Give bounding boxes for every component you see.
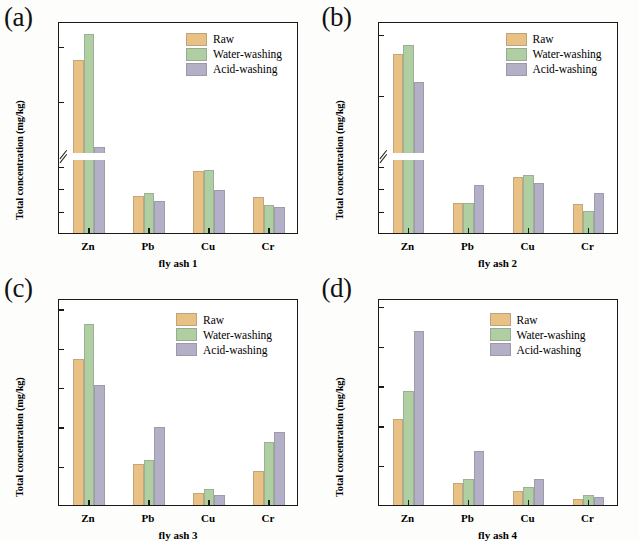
legend-swatch-icon <box>186 48 207 61</box>
y-axis-label: Total concentration (mg/kg) <box>334 100 345 220</box>
legend-swatch-icon <box>490 328 511 341</box>
bar-pb-raw <box>453 203 464 234</box>
legend-swatch-icon <box>176 343 197 356</box>
legend-label: Water-washing <box>213 48 282 60</box>
y-tick-mark <box>379 35 384 36</box>
bar-pb-acid-washing <box>154 427 165 506</box>
legend-item-water-washing[interactable]: Water-washing <box>506 47 602 61</box>
legend-label: Raw <box>533 33 554 45</box>
bar-zn-raw <box>393 54 404 234</box>
bar-cu-water-washing <box>523 175 534 235</box>
bar-cu-acid-washing <box>214 495 225 506</box>
legend-item-raw[interactable]: Raw <box>176 313 272 327</box>
legend-swatch-icon <box>186 33 207 46</box>
legend-swatch-icon <box>506 33 527 46</box>
axis-break-marker <box>59 153 297 160</box>
bar-cu-acid-washing <box>534 183 545 234</box>
y-tick-mark <box>379 466 384 467</box>
legend-item-acid-washing[interactable]: Acid-washing <box>186 62 282 76</box>
legend-item-raw[interactable]: Raw <box>186 32 282 46</box>
bar-cr-water-washing <box>264 442 275 505</box>
x-category-pb: Pb <box>461 240 474 252</box>
panel-b: (b)Total concentration (mg/kg)0200400600… <box>320 0 639 271</box>
legend-swatch-icon <box>490 313 511 326</box>
y-tick-mark <box>59 467 64 468</box>
bar-zn-acid-washing <box>94 385 105 506</box>
x-tick-mark <box>268 228 269 233</box>
x-category-pb: Pb <box>142 240 155 252</box>
x-category-zn: Zn <box>401 240 414 252</box>
x-category-cr: Cr <box>581 512 594 524</box>
legend-label: Raw <box>517 314 538 326</box>
x-tick-mark <box>408 500 409 505</box>
y-tick-mark <box>59 388 64 389</box>
panel-letter-c: (c) <box>4 273 32 304</box>
legend-item-acid-washing[interactable]: Acid-washing <box>176 343 272 357</box>
x-category-cr: Cr <box>262 240 275 252</box>
x-tick-mark <box>468 228 469 233</box>
y-tick-mark <box>59 102 64 103</box>
legend: RawWater-washingAcid-washing <box>490 313 586 357</box>
legend-label: Acid-washing <box>517 344 582 356</box>
bar-zn-water-washing <box>84 34 95 234</box>
x-category-cr: Cr <box>262 512 275 524</box>
legend-label: Water-washing <box>533 48 602 60</box>
x-tick-mark <box>208 228 209 233</box>
y-tick-mark <box>379 189 384 190</box>
bar-zn-water-washing <box>84 324 95 506</box>
x-tick-mark <box>268 500 269 505</box>
legend-label: Acid-washing <box>533 63 598 75</box>
x-category-cu: Cu <box>201 240 215 252</box>
y-tick-mark <box>59 309 64 310</box>
x-category-cr: Cr <box>581 240 594 252</box>
x-category-pb: Pb <box>461 512 474 524</box>
legend-swatch-icon <box>490 343 511 356</box>
figure-panel-grid: (a)Total concentration (mg/kg)0100200300… <box>0 0 639 541</box>
bar-cu-raw <box>193 493 204 505</box>
legend-item-raw[interactable]: Raw <box>490 313 586 327</box>
bar-pb-raw <box>453 483 464 506</box>
bar-cr-raw <box>573 499 584 506</box>
legend-item-water-washing[interactable]: Water-washing <box>186 47 282 61</box>
bar-cu-acid-washing <box>534 479 545 505</box>
x-category-cu: Cu <box>201 512 215 524</box>
y-tick-mark <box>379 347 384 348</box>
bar-cu-acid-washing <box>214 190 225 234</box>
x-axis-label: fly ash 4 <box>378 529 618 541</box>
bar-cr-raw <box>573 204 584 234</box>
legend-item-acid-washing[interactable]: Acid-washing <box>490 343 586 357</box>
x-category-cu: Cu <box>520 512 534 524</box>
legend-item-water-washing[interactable]: Water-washing <box>176 328 272 342</box>
legend-item-raw[interactable]: Raw <box>506 32 602 46</box>
legend-swatch-icon <box>506 48 527 61</box>
y-axis-label: Total concentration (mg/kg) <box>14 377 25 497</box>
y-tick-mark <box>379 307 384 308</box>
y-tick-mark <box>379 212 384 213</box>
x-tick-mark <box>528 500 529 505</box>
legend-item-acid-washing[interactable]: Acid-washing <box>506 62 602 76</box>
x-tick-mark <box>588 500 589 505</box>
legend-label: Water-washing <box>203 329 272 341</box>
legend-label: Raw <box>203 314 224 326</box>
x-category-zn: Zn <box>81 512 94 524</box>
panel-a: (a)Total concentration (mg/kg)0100200300… <box>0 0 320 271</box>
legend-label: Acid-washing <box>213 63 278 75</box>
bar-pb-raw <box>133 196 144 234</box>
bar-zn-raw <box>73 359 84 505</box>
bar-pb-acid-washing <box>474 451 485 506</box>
bar-cr-acid-washing <box>594 497 605 506</box>
x-axis-label: fly ash 2 <box>378 257 618 269</box>
legend-label: Raw <box>213 33 234 45</box>
x-tick-mark <box>208 500 209 505</box>
x-category-pb: Pb <box>142 512 155 524</box>
y-tick-mark <box>379 426 384 427</box>
legend-swatch-icon <box>506 63 527 76</box>
bar-cr-acid-washing <box>594 193 605 234</box>
x-axis-label: fly ash 1 <box>58 257 298 269</box>
y-tick-mark <box>59 349 64 350</box>
bar-pb-acid-washing <box>474 185 485 234</box>
bar-cu-water-washing <box>204 170 215 234</box>
x-tick-mark <box>588 228 589 233</box>
legend-item-water-washing[interactable]: Water-washing <box>490 328 586 342</box>
bar-cr-acid-washing <box>274 207 285 234</box>
